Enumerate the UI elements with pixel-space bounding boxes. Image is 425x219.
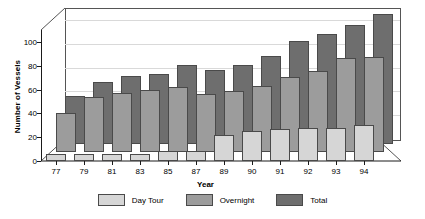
y-axis-tick: [37, 137, 41, 138]
legend-label: Total: [310, 196, 327, 205]
bar-daytour-90: [242, 131, 262, 161]
y-axis-tick: [37, 90, 41, 91]
x-axis-tick: [84, 161, 85, 165]
y-axis-tick: [37, 66, 41, 67]
legend-label: Day Tour: [132, 196, 164, 205]
y-axis-tick: [37, 113, 41, 114]
y-axis-tick: [37, 161, 41, 162]
bar-daytour-87: [186, 151, 206, 161]
x-axis-title-text: Year: [197, 180, 214, 189]
x-axis-tick-label: 90: [248, 167, 257, 176]
bar-daytour-81: [102, 154, 122, 161]
bar-overnight-81: [112, 93, 132, 153]
y-axis-tick-label: 60: [13, 85, 37, 94]
x-axis-tick: [168, 161, 169, 165]
x-axis-tick-label: 79: [80, 167, 89, 176]
bar-overnight-87: [196, 94, 216, 152]
bar-overnight-77: [56, 113, 76, 152]
x-axis-tick-label: 77: [52, 167, 61, 176]
x-axis-tick: [112, 161, 113, 165]
legend-swatch-icon: [98, 194, 125, 206]
x-axis-tick: [140, 161, 141, 165]
legend-swatch-icon: [186, 194, 213, 206]
bar-daytour-89: [214, 135, 234, 161]
legend-item-overnight[interactable]: Overnight: [186, 194, 255, 206]
x-axis-tick: [336, 161, 337, 165]
y-axis-tick-label: 80: [13, 61, 37, 70]
x-axis-tick-label: 83: [136, 167, 145, 176]
x-axis-tick-label: 89: [220, 167, 229, 176]
y-axis-line: [41, 30, 42, 161]
x-axis-tick-label: 91: [276, 167, 285, 176]
x-axis-tick: [280, 161, 281, 165]
bar-daytour-77: [46, 154, 66, 161]
plot-area: 020406080100 777981838587899091929394: [41, 8, 401, 163]
x-axis-tick: [364, 161, 365, 165]
y-axis-tick-label: 20: [13, 133, 37, 142]
legend-item-total[interactable]: Total: [276, 194, 327, 206]
legend-swatch-icon: [276, 194, 303, 206]
x-axis-tick-label: 85: [164, 167, 173, 176]
bar-daytour-93: [326, 128, 346, 161]
x-axis-tick: [56, 161, 57, 165]
y-axis-tick: [37, 42, 41, 43]
chart-container: Number of Vessels 020406080100 777981838…: [0, 0, 425, 219]
x-axis-tick: [224, 161, 225, 165]
gridline: [65, 20, 400, 21]
legend-label: Overnight: [220, 196, 255, 205]
bar-daytour-79: [74, 154, 94, 161]
x-axis-title: Year: [0, 180, 425, 189]
bar-daytour-92: [298, 128, 318, 161]
legend-item-day-tour[interactable]: Day Tour: [98, 194, 164, 206]
chart-legend: Day TourOvernightTotal: [0, 194, 425, 206]
x-axis-tick-label: 87: [192, 167, 201, 176]
x-axis-tick: [308, 161, 309, 165]
x-axis-tick: [252, 161, 253, 165]
x-axis-tick-label: 93: [332, 167, 341, 176]
bar-overnight-79: [84, 97, 104, 152]
bar-daytour-83: [130, 154, 150, 161]
bar-daytour-91: [270, 129, 290, 161]
y-axis-tick-label: 40: [13, 109, 37, 118]
bar-overnight-85: [168, 87, 188, 153]
x-axis-tick: [196, 161, 197, 165]
bar-daytour-94: [354, 125, 374, 161]
y-axis-tick-label: 0: [13, 157, 37, 166]
x-axis-tick-label: 81: [108, 167, 117, 176]
y-axis-tick-label: 100: [13, 37, 37, 46]
bar-daytour-85: [158, 151, 178, 161]
bar-overnight-83: [140, 90, 160, 152]
x-axis-tick-label: 94: [360, 167, 369, 176]
x-axis-tick-label: 92: [304, 167, 313, 176]
